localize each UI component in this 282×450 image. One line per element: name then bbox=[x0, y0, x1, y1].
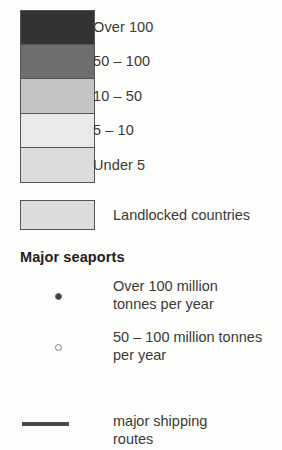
hollow-dot-icon bbox=[55, 344, 62, 351]
seaport-marker-cell bbox=[46, 277, 70, 315]
density-label-under-5: Under 5 bbox=[93, 157, 145, 173]
landlocked-swatch bbox=[20, 200, 95, 230]
density-swatch-row bbox=[21, 45, 94, 79]
density-label-over-100: Over 100 bbox=[93, 19, 153, 35]
shipping-routes-label: major shipping routes bbox=[113, 412, 207, 448]
seaport-label-over-100: Over 100 million tonnes per year bbox=[113, 277, 218, 313]
seaport-marker-cell bbox=[46, 328, 70, 366]
density-swatch-row bbox=[21, 11, 94, 45]
map-legend: Over 100 50 – 100 10 – 50 5 – 10 Under 5… bbox=[0, 0, 282, 450]
density-swatch-row bbox=[21, 114, 94, 148]
density-label-50-100: 50 – 100 bbox=[93, 53, 150, 69]
density-label-5-10: 5 – 10 bbox=[93, 122, 134, 138]
shipping-route-line-icon bbox=[22, 422, 69, 426]
density-swatch-stack bbox=[20, 10, 95, 183]
seaport-label-50-100: 50 – 100 million tonnes per year bbox=[113, 328, 262, 364]
seaport-label-line2: tonnes per year bbox=[113, 295, 218, 313]
shipping-routes-line2: routes bbox=[113, 430, 207, 448]
landlocked-label: Landlocked countries bbox=[113, 207, 250, 223]
density-swatch-row bbox=[21, 79, 94, 113]
seaport-label-line2: per year bbox=[113, 346, 262, 364]
density-swatch-row bbox=[21, 148, 94, 182]
shipping-routes-line1: major shipping bbox=[113, 412, 207, 430]
seaports-heading: Major seaports bbox=[20, 249, 125, 265]
density-label-10-50: 10 – 50 bbox=[93, 88, 142, 104]
seaport-label-line1: Over 100 million bbox=[113, 277, 218, 295]
seaport-label-line1: 50 – 100 million tonnes bbox=[113, 328, 262, 346]
filled-dot-icon bbox=[55, 293, 62, 300]
